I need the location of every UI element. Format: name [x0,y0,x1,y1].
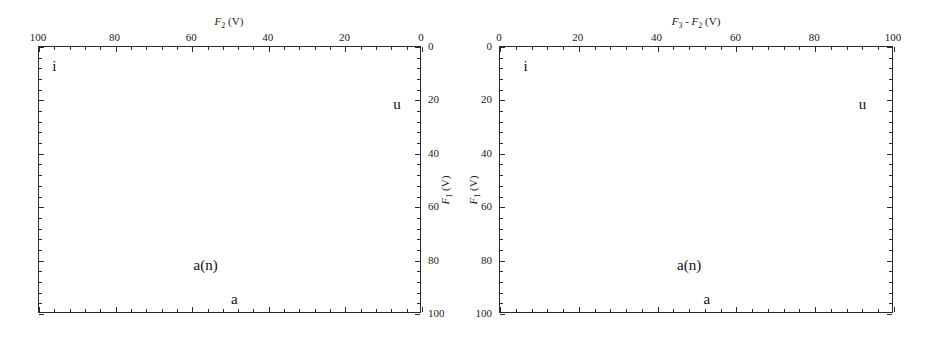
x-axis-tick-bottom-minor [284,309,285,312]
y-axis-tick-opposite-minor [39,68,42,69]
y-axis-tick-opposite-major [39,207,44,208]
y-axis-tick-minor [417,79,420,80]
x-axis-tick-minor [532,47,533,50]
x-axis-tick-label: 60 [730,32,741,43]
y-axis-tick-opposite-minor [889,239,892,240]
y-axis-tick-label: 100 [476,308,493,319]
y-axis-tick-opposite-major [39,100,44,101]
y-axis-tick-opposite-major [39,47,44,48]
y-axis-tick-opposite-minor [39,143,42,144]
x-axis-tick-minor [315,47,316,50]
x-axis-tick-bottom-minor [315,309,316,312]
y-axis-tick-label: 40 [481,147,492,158]
y-axis-tick-opposite-minor [39,90,42,91]
x-axis-tick-major [192,47,193,52]
y-axis-tick-minor [500,197,503,198]
x-axis-tick-minor [162,47,163,50]
x-axis-tick-bottom-minor [253,309,254,312]
x-axis-tick-minor [642,47,643,50]
y-axis-title-right: F1 (V) [468,176,482,205]
x-axis-tick-minor [54,47,55,50]
x-axis-tick-minor [784,47,785,50]
y-axis-tick-minor [500,186,503,187]
x-axis-tick-bottom-minor [862,309,863,312]
x-axis-tick-bottom-major [736,307,737,312]
y-axis-tick-minor [500,132,503,133]
region-label-a: a [704,292,711,307]
y-axis-tick-minor [500,79,503,80]
y-axis-tick-opposite-minor [889,68,892,69]
y-axis-tick-minor [417,218,420,219]
x-axis-tick-label: 20 [339,32,350,43]
x-axis-tick-minor [626,47,627,50]
x-axis-tick-bottom-minor [532,309,533,312]
x-axis-tick-bottom-minor [673,309,674,312]
y-axis-tick-opposite-minor [889,271,892,272]
region-label-an: a(n) [194,257,218,272]
x-axis-tick-minor [547,47,548,50]
y-axis-tick-minor [417,303,420,304]
x-axis-tick-minor [610,47,611,50]
y-axis-title-left: F1 (V) [440,176,454,205]
y-axis-tick-opposite-minor [889,122,892,123]
x-axis-tick-minor [330,47,331,50]
x-axis-tick-bottom-minor [330,309,331,312]
y-axis-tick-minor [417,68,420,69]
x-axis-tick-major [658,47,659,52]
y-axis-tick-opposite-minor [39,239,42,240]
y-axis-tick-opposite-minor [889,250,892,251]
y-axis-tick-opposite-minor [39,229,42,230]
x-axis-tick-bottom-minor [768,309,769,312]
y-axis-tick-major [415,154,420,155]
x-axis-tick-minor [391,47,392,50]
region-label-u: u [393,97,401,112]
y-axis-tick-minor [417,58,420,59]
x-axis-tick-minor [223,47,224,50]
x-axis-tick-label: 0 [418,32,424,43]
y-axis-tick-opposite-minor [39,111,42,112]
x-axis-tick-bottom-minor [799,309,800,312]
x-axis-tick-minor [100,47,101,50]
y-axis-tick-opposite-minor [889,58,892,59]
x-axis-tick-bottom-minor [642,309,643,312]
y-axis-tick-opposite-minor [889,229,892,230]
x-axis-tick-bottom-major [422,307,423,312]
y-axis-tick-opposite-minor [889,303,892,304]
x-axis-tick-bottom-minor [563,309,564,312]
y-axis-tick-label: 0 [487,41,493,52]
y-axis-tick-minor [417,293,420,294]
x-axis-tick-label: 100 [885,32,902,43]
x-axis-tick-bottom-minor [85,309,86,312]
x-axis-tick-minor [673,47,674,50]
x-axis-tick-bottom-minor [626,309,627,312]
y-axis-tick-minor [500,68,503,69]
x-axis-tick-minor [131,47,132,50]
x-axis-tick-bottom-major [579,307,580,312]
x-axis-tick-minor [299,47,300,50]
y-axis-tick-minor [417,90,420,91]
y-axis-tick-minor [417,282,420,283]
y-axis-tick-opposite-major [887,47,892,48]
y-axis-tick-minor [417,239,420,240]
y-axis-tick-opposite-minor [39,293,42,294]
x-axis-tick-bottom-minor [689,309,690,312]
x-axis-tick-bottom-minor [610,309,611,312]
y-axis-tick-minor [417,143,420,144]
x-axis-tick-label: 40 [262,32,273,43]
region-label-i: i [524,58,528,73]
y-axis-tick-opposite-minor [39,282,42,283]
y-axis-tick-opposite-minor [889,79,892,80]
y-axis-tick-label: 0 [428,41,434,52]
y-axis-tick-opposite-minor [39,58,42,59]
y-axis-tick-minor [500,143,503,144]
y-axis-tick-minor [417,175,420,176]
x-axis-tick-label: 0 [496,32,502,43]
y-axis-tick-label: 20 [481,94,492,105]
y-axis-tick-opposite-major [887,154,892,155]
y-axis-tick-opposite-minor [39,186,42,187]
x-axis-tick-minor [563,47,564,50]
x-axis-tick-bottom-minor [595,309,596,312]
y-axis-tick-opposite-major [39,261,44,262]
y-axis-tick-opposite-minor [39,218,42,219]
y-axis-tick-opposite-minor [889,90,892,91]
